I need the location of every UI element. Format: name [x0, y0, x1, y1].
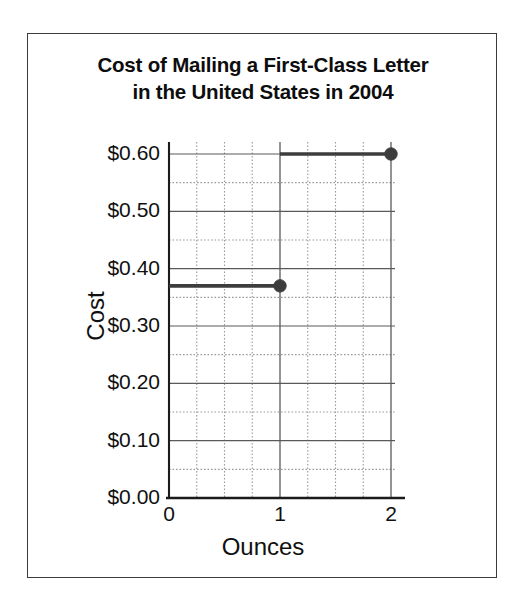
x-axis-title: Ounces	[28, 533, 498, 561]
chart-figure: Cost of Mailing a First-Class Letter in …	[0, 0, 517, 602]
y-tick-label: $0.10	[107, 428, 160, 452]
y-tick-label: $0.40	[107, 256, 160, 280]
y-axis-title: Cost	[82, 256, 110, 376]
axis-lines	[166, 142, 405, 498]
y-tick-label: $0.30	[107, 313, 160, 337]
figure-border-frame: Cost of Mailing a First-Class Letter in …	[27, 33, 497, 578]
x-tick-label: 2	[371, 502, 411, 526]
y-tick-label: $0.60	[107, 141, 160, 165]
y-tick-label: $0.50	[107, 198, 160, 222]
x-tick-label: 1	[260, 502, 300, 526]
x-tick-label: 0	[149, 502, 189, 526]
y-tick-label: $0.20	[107, 370, 160, 394]
